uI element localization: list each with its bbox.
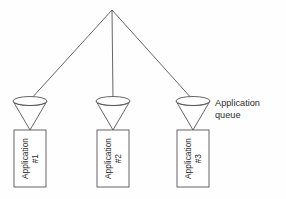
application-box-2[interactable] [97,130,129,187]
funnel-2[interactable] [96,97,130,131]
application-queue-label: Application queue [215,98,260,121]
application-queue-label-line-1: Application [215,98,260,110]
application-queue-label-line-2: queue [215,110,260,122]
application-box-3[interactable] [177,130,209,187]
connector-to-funnel-2 [112,10,113,100]
connector-group [30,10,193,100]
funnel-1[interactable] [13,97,47,131]
application-queue-diagram: Application #1 Application #2 Applicatio… [0,0,286,199]
application-box-1[interactable] [14,130,46,187]
connector-to-funnel-1 [30,10,112,100]
connector-to-funnel-3 [112,10,193,100]
funnel-3[interactable] [176,97,210,131]
